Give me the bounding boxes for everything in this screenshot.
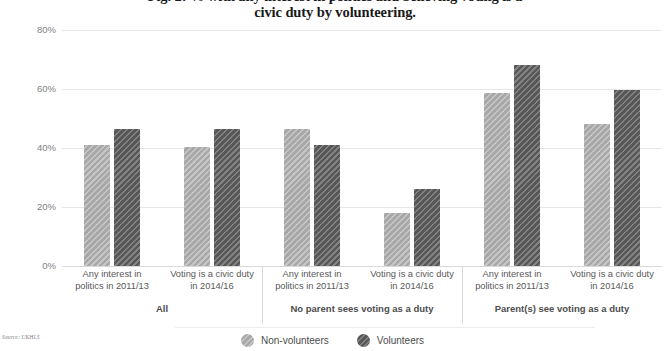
legend-swatch-icon [241, 334, 254, 347]
bar-chart: Fig. 2: % with any interest in politics … [0, 0, 665, 351]
chart-title: Fig. 2: % with any interest in politics … [90, 0, 580, 20]
y-axis-tick-label: 20% [10, 201, 56, 212]
gridline [62, 89, 662, 90]
y-axis: 0%20%40%60%80% [0, 30, 56, 266]
bar [84, 145, 110, 266]
x-axis-line [62, 266, 662, 267]
x-axis-category-label-line: Any interest in [62, 269, 162, 281]
bar [384, 213, 410, 266]
plot-area [62, 30, 662, 266]
x-axis-group-label: Parent(s) see voting as a duty [462, 303, 662, 314]
legend-swatch-icon [357, 334, 370, 347]
chart-legend: Non-volunteersVolunteers [0, 329, 665, 351]
x-axis-category-label-line: politics in 2011/13 [262, 281, 362, 293]
group-separator [462, 266, 463, 324]
y-axis-tick-label: 40% [10, 142, 56, 153]
legend-divider [175, 327, 595, 328]
x-axis-category-label-line: in 2014/16 [362, 281, 462, 293]
bar [284, 129, 310, 266]
bar [484, 93, 510, 266]
legend-item[interactable]: Non-volunteers [241, 334, 329, 347]
x-axis-category-label-line: politics in 2011/13 [462, 281, 562, 293]
bar [314, 145, 340, 266]
gridline [62, 30, 662, 31]
x-axis-category-label-line: Any interest in [462, 269, 562, 281]
x-axis-category-label-line: in 2014/16 [162, 281, 262, 293]
bar [584, 124, 610, 266]
chart-title-line-2: civic duty by volunteering. [90, 4, 580, 20]
x-axis-category-label-line: Voting is a civic duty [562, 269, 662, 281]
group-separator [262, 266, 263, 324]
x-axis-group-labels: AllNo parent sees voting as a dutyParent… [62, 303, 662, 321]
x-axis-group-label: All [62, 303, 262, 314]
gridline [62, 207, 662, 208]
x-axis-category-label-line: Any interest in [262, 269, 362, 281]
bar [614, 90, 640, 266]
x-axis-category-label: Any interest inpolitics in 2011/13 [62, 269, 162, 292]
legend-label: Non-volunteers [261, 335, 329, 346]
y-axis-tick-label: 0% [10, 260, 56, 271]
x-axis-group-label: No parent sees voting as a duty [262, 303, 462, 314]
x-axis-category-label: Any interest inpolitics in 2011/13 [262, 269, 362, 292]
x-axis-category-label: Voting is a civic dutyin 2014/16 [562, 269, 662, 292]
gridline [62, 148, 662, 149]
legend-item[interactable]: Volunteers [357, 334, 424, 347]
x-axis-category-label: Voting is a civic dutyin 2014/16 [162, 269, 262, 292]
bar [414, 189, 440, 266]
x-axis-category-label-line: Voting is a civic duty [162, 269, 262, 281]
x-axis-category-label-line: politics in 2011/13 [62, 281, 162, 293]
bar [514, 65, 540, 266]
bar [114, 129, 140, 266]
source-note: Source: UKHLS [2, 334, 40, 340]
x-axis-category-label: Voting is a civic dutyin 2014/16 [362, 269, 462, 292]
bar [184, 147, 210, 266]
y-axis-tick-label: 80% [10, 24, 56, 35]
x-axis-category-label-line: in 2014/16 [562, 281, 662, 293]
legend-label: Volunteers [377, 335, 424, 346]
x-axis-category-label-line: Voting is a civic duty [362, 269, 462, 281]
x-axis-category-label: Any interest inpolitics in 2011/13 [462, 269, 562, 292]
y-axis-tick-label: 60% [10, 83, 56, 94]
bar [214, 129, 240, 266]
